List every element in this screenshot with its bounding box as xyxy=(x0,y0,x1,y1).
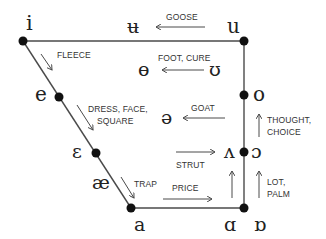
symbol-open-o: ɔ xyxy=(251,142,262,161)
label-trap: TRAP xyxy=(134,179,157,190)
label-dress-face: DRESS, FACE, xyxy=(88,104,148,115)
symbol-a: a xyxy=(134,215,145,234)
dot-o xyxy=(240,91,249,100)
label-goat: GOAT xyxy=(191,103,215,114)
dot-u xyxy=(240,37,249,46)
label-square: SQUARE xyxy=(97,116,134,127)
symbol-script-a: ɑ xyxy=(224,215,236,234)
dot-i xyxy=(19,37,28,46)
dot-wedge xyxy=(240,148,249,157)
symbol-theta: ɵ xyxy=(138,60,149,79)
dot-a xyxy=(127,204,136,213)
label-price: PRICE xyxy=(172,183,198,194)
label-choice: CHOICE xyxy=(267,127,301,138)
symbol-wedge: ʌ xyxy=(224,142,235,161)
dot-epsilon xyxy=(92,149,101,158)
symbol-o: o xyxy=(253,84,265,104)
label-foot-cure: FOOT, CURE xyxy=(158,53,210,64)
symbol-e: e xyxy=(35,84,47,104)
label-goose: GOOSE xyxy=(166,12,198,23)
symbol-i: i xyxy=(26,13,33,34)
dot-e xyxy=(55,93,64,102)
fleece-arrow xyxy=(41,54,52,70)
symbol-turned-script-a: ɒ xyxy=(254,215,266,234)
label-palm: PALM xyxy=(267,189,290,200)
label-lot: LOT, xyxy=(267,177,285,188)
symbol-u-bar: ʉ xyxy=(127,17,139,36)
dot-script-a xyxy=(240,204,249,213)
symbol-ae: æ xyxy=(92,173,110,192)
label-thought: THOUGHT, xyxy=(267,115,311,126)
label-strut: STRUT xyxy=(176,160,205,171)
symbol-epsilon: ɛ xyxy=(72,142,82,161)
label-fleece: FLEECE xyxy=(57,50,91,61)
symbol-upsilon: ʊ xyxy=(209,60,221,79)
symbol-u: u xyxy=(227,16,240,36)
symbol-schwa: ə xyxy=(161,108,172,127)
